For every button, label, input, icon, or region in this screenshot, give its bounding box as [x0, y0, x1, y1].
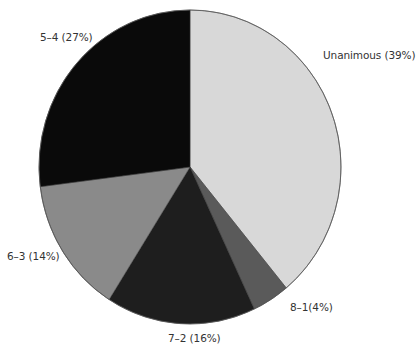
label-5-4: 5–4 (27%)	[40, 31, 93, 43]
label-unanimous: Unanimous (39%)	[323, 49, 416, 61]
label-6-3: 6–3 (14%)	[7, 250, 60, 262]
pie-slices	[39, 10, 341, 324]
label-7-2: 7–2 (16%)	[168, 332, 221, 344]
label-8-1: 8–1(4%)	[290, 301, 333, 313]
